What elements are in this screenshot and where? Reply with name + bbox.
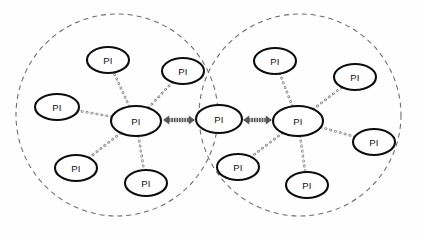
diagram-canvas: PIPIPIPIPIPIPIPIPIPIPIPIPI xyxy=(0,0,425,234)
node-left-sat-sw[interactable]: PI xyxy=(55,155,97,181)
node-left-hub[interactable]: PI xyxy=(111,106,161,136)
node-right-sat-top[interactable]: PI xyxy=(254,48,296,74)
node-right-sat-sw[interactable]: PI xyxy=(217,154,259,180)
node-label: PI xyxy=(71,163,81,174)
node-right-sat-east[interactable]: PI xyxy=(353,129,395,155)
node-label: PI xyxy=(350,72,360,83)
cluster-diagram: PIPIPIPIPIPIPIPIPIPIPIPIPI xyxy=(0,0,425,234)
edge-connector xyxy=(138,136,144,170)
edge-connector xyxy=(251,133,282,157)
node-label: PI xyxy=(302,180,312,191)
node-layer: PIPIPIPIPIPIPIPIPIPIPIPIPI xyxy=(35,47,395,198)
node-label: PI xyxy=(141,178,151,189)
edge-connector xyxy=(78,111,112,117)
edge-connector xyxy=(313,87,342,109)
bridge-double-arrow xyxy=(243,115,272,124)
node-label: PI xyxy=(178,66,188,77)
node-left-sat-west[interactable]: PI xyxy=(35,94,79,120)
edge-connector xyxy=(321,127,355,136)
node-label: PI xyxy=(103,55,113,66)
node-right-sat-south[interactable]: PI xyxy=(286,172,328,198)
node-label: PI xyxy=(369,137,379,148)
bridge-double-arrow xyxy=(163,115,195,124)
node-label: PI xyxy=(214,114,224,125)
edge-connector xyxy=(148,82,172,108)
node-left-sat-ne[interactable]: PI xyxy=(162,58,204,84)
edge-connector xyxy=(114,73,130,107)
node-right-hub[interactable]: PI xyxy=(273,106,323,136)
node-left-sat-top[interactable]: PI xyxy=(87,47,129,73)
edge-connector xyxy=(300,136,305,172)
edge-connector xyxy=(89,133,121,158)
node-shared-node[interactable]: PI xyxy=(196,105,242,133)
edge-connector xyxy=(280,74,293,107)
node-label: PI xyxy=(52,102,62,113)
node-label: PI xyxy=(233,162,243,173)
node-label: PI xyxy=(270,56,280,67)
node-left-sat-south[interactable]: PI xyxy=(125,170,167,196)
node-label: PI xyxy=(131,116,141,127)
node-label: PI xyxy=(293,116,303,127)
node-right-sat-ne[interactable]: PI xyxy=(334,64,376,90)
